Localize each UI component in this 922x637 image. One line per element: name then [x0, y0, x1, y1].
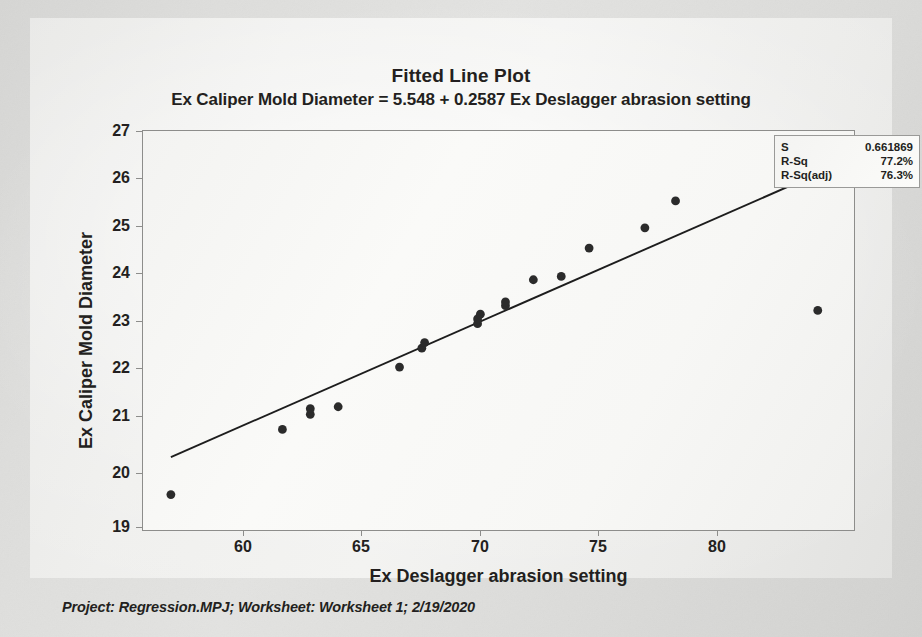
data-point-markers — [166, 196, 822, 499]
y-tick-label-22: 22 — [96, 359, 130, 377]
x-tick-label-80: 80 — [695, 538, 739, 556]
y-tick-label-21: 21 — [96, 407, 130, 425]
stat-row-rsq-adj: R-Sq(adj) 76.3% — [781, 168, 913, 182]
y-tick-label-19: 19 — [96, 518, 130, 536]
stat-label-rsq-adj: R-Sq(adj) — [781, 168, 832, 182]
x-tick-label-60: 60 — [221, 538, 265, 556]
x-tick-mark-65 — [361, 531, 362, 536]
y-tick-label-24: 24 — [96, 264, 130, 282]
x-tick-label-70: 70 — [458, 538, 502, 556]
y-tick-label-25: 25 — [96, 217, 130, 235]
stat-row-s: S 0.661869 — [781, 140, 913, 154]
x-axis-title: Ex Deslagger abrasion setting — [142, 566, 855, 587]
stat-value-rsq: 77.2% — [880, 154, 913, 168]
x-tick-mark-80 — [717, 531, 718, 536]
stat-row-rsq: R-Sq 77.2% — [781, 154, 913, 168]
page-title: Fitted Line Plot — [30, 65, 892, 87]
regression-stats-box: S 0.661869 R-Sq 77.2% R-Sq(adj) 76.3% — [774, 135, 920, 188]
scatter-plot-canvas — [143, 131, 854, 530]
regression-equation-subtitle: Ex Caliper Mold Diameter = 5.548 + 0.258… — [30, 90, 892, 110]
x-tick-mark-60 — [243, 531, 244, 536]
stat-value-rsq-adj: 76.3% — [880, 168, 913, 182]
stat-label-s: S — [781, 140, 789, 154]
x-tick-mark-70 — [480, 531, 481, 536]
fitted-line-plot-card: Fitted Line Plot Ex Caliper Mold Diamete… — [30, 18, 892, 578]
y-tick-label-26: 26 — [96, 169, 130, 187]
stat-value-s: 0.661869 — [865, 140, 913, 154]
y-tick-label-23: 23 — [96, 312, 130, 330]
regression-line — [171, 172, 821, 457]
x-tick-mark-75 — [598, 531, 599, 536]
y-tick-label-27: 27 — [96, 122, 130, 140]
y-axis-title: Ex Caliper Mold Diameter — [76, 181, 97, 501]
x-tick-label-75: 75 — [576, 538, 620, 556]
plot-area — [142, 130, 855, 531]
y-tick-label-20: 20 — [96, 464, 130, 482]
x-tick-label-65: 65 — [339, 538, 383, 556]
stat-label-rsq: R-Sq — [781, 154, 808, 168]
project-footer-text: Project: Regression.MPJ; Worksheet: Work… — [62, 599, 475, 615]
